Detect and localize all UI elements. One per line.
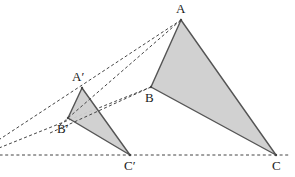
vertex-marker-c-prime [129,154,131,156]
label-b-prime: B′ [57,122,69,135]
vertex-marker-c [275,154,277,156]
label-a: A [176,2,185,15]
geometry-figure: A B C A′ B′ C′ [0,0,295,177]
label-c-prime: C′ [124,159,136,172]
triangle-abc [151,20,276,155]
vertex-marker-b [150,86,152,88]
vertex-marker-a-prime [81,87,83,89]
vertex-marker-a [180,19,182,21]
geometry-canvas [0,0,295,177]
label-a-prime: A′ [72,70,84,83]
label-c: C [272,159,281,172]
label-b: B [145,91,154,104]
vertex-marker-b-prime [67,117,69,119]
triangle-a-prime-b-prime-c-prime [68,88,130,155]
